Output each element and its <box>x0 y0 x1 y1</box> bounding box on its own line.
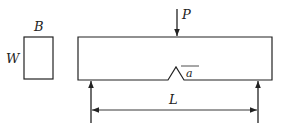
cross-section-height-label: W <box>6 51 21 66</box>
beam-outline <box>78 37 272 80</box>
load-label: P <box>181 7 191 22</box>
cross-section: B W <box>6 19 53 79</box>
cross-section-rect <box>24 37 53 79</box>
cross-section-width-label: B <box>33 19 44 34</box>
beam: a <box>78 37 272 80</box>
span-label: L <box>168 92 178 107</box>
notch-depth-label: a <box>186 67 193 80</box>
three-point-bend-diagram: B W a P L <box>0 0 281 129</box>
load-arrow: P <box>177 7 191 36</box>
span-dimension: L <box>92 92 257 110</box>
